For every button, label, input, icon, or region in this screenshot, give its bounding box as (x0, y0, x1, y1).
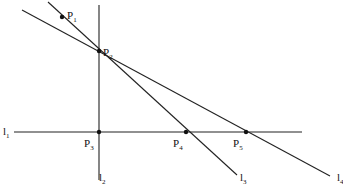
line-l3 (48, 2, 237, 175)
point-label-P4: P4 (173, 137, 183, 152)
geometry-figure: l1l2l3l4P1P2P3P4P5 (0, 0, 343, 185)
line-label-l2: l2 (99, 171, 106, 185)
line-label-l4: l4 (337, 171, 343, 185)
point-label-P3: P3 (84, 137, 94, 152)
diagram-canvas: l1l2l3l4P1P2P3P4P5 (0, 0, 343, 185)
point-P5 (244, 130, 248, 134)
line-l4 (22, 10, 330, 176)
point-P3 (97, 130, 101, 134)
line-label-l1: l1 (3, 125, 10, 140)
point-label-P5: P5 (233, 137, 243, 152)
point-label-P1: P1 (67, 9, 77, 24)
point-P4 (184, 130, 188, 134)
point-P2 (97, 49, 101, 53)
line-label-l3: l3 (240, 171, 247, 185)
point-label-P2: P2 (103, 46, 113, 61)
point-P1 (60, 15, 64, 19)
